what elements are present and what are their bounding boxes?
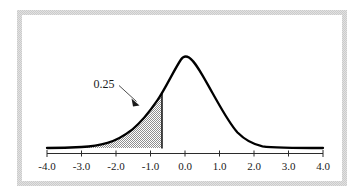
x-tick-label: -1.0 (142, 160, 160, 172)
normal-distribution-figure: -4.0 -3.0 -2.0 -1.0 0.0 1.0 2.0 3.0 4.0 … (0, 0, 363, 196)
x-tick-label: -2.0 (107, 160, 125, 172)
shaded-area (47, 93, 162, 148)
leader-line (119, 86, 137, 102)
x-tick-label: 3.0 (282, 160, 296, 172)
x-tick-label: 0.0 (178, 160, 192, 172)
x-tick-label: 4.0 (316, 160, 330, 172)
normal-curve-plot: -4.0 -3.0 -2.0 -1.0 0.0 1.0 2.0 3.0 4.0 … (0, 0, 363, 196)
normal-curve (47, 57, 323, 148)
x-tick-label: -4.0 (38, 160, 56, 172)
x-axis-tick-labels: -4.0 -3.0 -2.0 -1.0 0.0 1.0 2.0 3.0 4.0 (38, 160, 330, 172)
area-label: 0.25 (94, 77, 115, 91)
x-tick-label: 2.0 (247, 160, 261, 172)
x-tick-label: -3.0 (73, 160, 91, 172)
leader-arrow-icon (132, 99, 140, 107)
x-tick-label: 1.0 (213, 160, 227, 172)
